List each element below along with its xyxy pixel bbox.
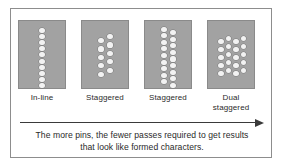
pin-dot [241, 60, 246, 65]
panel-label-0: In-line [18, 93, 66, 103]
pin-dot [39, 59, 44, 64]
pin-dot [161, 60, 166, 65]
pin-dot [170, 63, 175, 68]
pin-head-diagram-1 [81, 20, 129, 89]
pin-dot [98, 63, 103, 68]
pin-dot [233, 39, 238, 44]
pin-dot [161, 53, 166, 58]
pin-dot [170, 70, 175, 75]
pin-dot [39, 46, 44, 51]
figure-frame: In-line Staggered Staggered Dual stagger… [10, 8, 272, 158]
pin-dot [107, 68, 112, 73]
pin-dot [107, 51, 112, 56]
pin-dot [39, 28, 44, 33]
pin-dot [241, 44, 246, 49]
pin-dot [107, 34, 112, 39]
pin-dot [161, 27, 166, 32]
panel-row: In-line Staggered Staggered Dual stagger… [11, 9, 273, 109]
pin-dot [39, 77, 44, 82]
pin-head-diagram-2 [144, 20, 192, 89]
pin-dot [233, 55, 238, 60]
progression-arrow [20, 118, 264, 127]
pin-dot [170, 83, 175, 88]
caption: The more pins, the fewer passes required… [19, 129, 265, 153]
pin-dot [226, 36, 231, 41]
pin-dot [161, 79, 166, 84]
pin-dot [161, 73, 166, 78]
pin-dot [170, 43, 175, 48]
pin-dot [218, 47, 223, 52]
pin-dot [241, 68, 246, 73]
pin-dot [170, 50, 175, 55]
panel-staggered-2: Staggered [144, 20, 192, 103]
panel-in-line: In-line [18, 20, 66, 103]
pin-dot [170, 30, 175, 35]
pin-dot [226, 68, 231, 73]
panel-staggered-1: Staggered [81, 20, 129, 103]
pin-dot [170, 76, 175, 81]
pin-dot [218, 55, 223, 60]
pin-dot [39, 71, 44, 76]
pin-dot [218, 63, 223, 68]
pin-dot [98, 72, 103, 77]
caption-line-2: that look like formed characters. [19, 141, 265, 153]
pin-dot [233, 71, 238, 76]
arrow-line [20, 122, 256, 123]
pin-dot [39, 83, 44, 88]
pin-dot [161, 46, 166, 51]
pin-dot [226, 44, 231, 49]
panel-label-1: Staggered [81, 93, 129, 103]
pin-dot [39, 52, 44, 57]
pin-dot [218, 39, 223, 44]
pin-dot [107, 59, 112, 64]
pin-dot [241, 52, 246, 57]
pin-dot [161, 66, 166, 71]
pin-dot [233, 47, 238, 52]
pin-dot [226, 60, 231, 65]
pin-dot [39, 40, 44, 45]
pin-dot [170, 37, 175, 42]
panel-label-3: Dual staggered [207, 93, 255, 112]
pin-dot [218, 71, 223, 76]
pin-dot [241, 36, 246, 41]
pin-dot [39, 34, 44, 39]
pin-head-diagram-3 [207, 20, 255, 89]
panel-label-2: Staggered [144, 93, 192, 103]
pin-head-diagram-0 [18, 20, 66, 89]
pin-dot [233, 63, 238, 68]
pin-dot [39, 65, 44, 70]
pin-dot [161, 40, 166, 45]
arrow-head-icon [255, 119, 264, 127]
pin-dot [98, 55, 103, 60]
pin-dot [98, 38, 103, 43]
panel-dual-staggered: Dual staggered [207, 20, 255, 112]
pin-dot [161, 33, 166, 38]
pin-dot [98, 46, 103, 51]
caption-line-1: The more pins, the fewer passes required… [19, 129, 265, 141]
pin-dot [107, 42, 112, 47]
pin-dot [226, 52, 231, 57]
pin-dot [170, 56, 175, 61]
